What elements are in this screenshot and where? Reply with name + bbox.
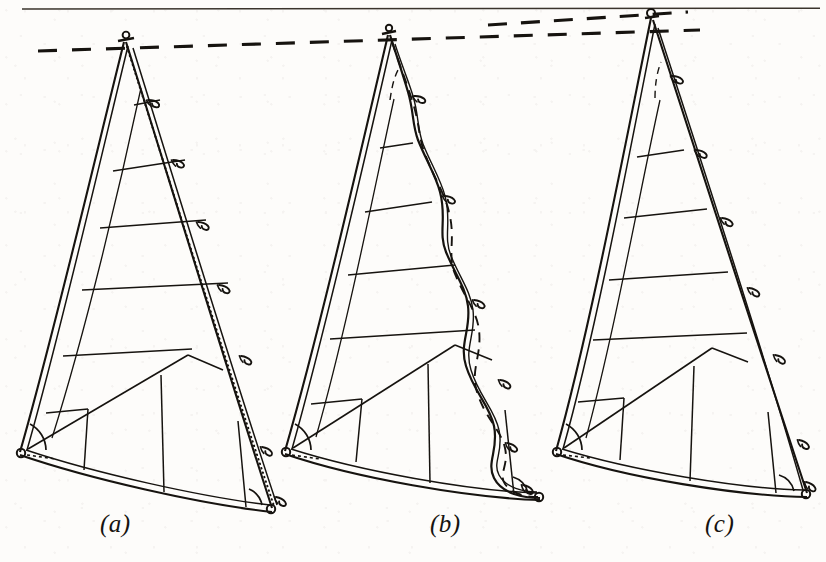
sail-a-seam xyxy=(46,409,88,413)
sail-b-luff-outer xyxy=(285,35,388,451)
sail-a-luff-outer xyxy=(20,42,124,452)
sail-b-luff-tabling xyxy=(316,99,394,437)
sail-c-seam xyxy=(578,398,624,402)
sail-c-mitre-seam-upper xyxy=(712,348,748,362)
sail-c xyxy=(553,9,817,498)
page-top-rule xyxy=(22,8,820,9)
sail-b-seam xyxy=(365,202,432,212)
sail-b xyxy=(282,25,543,501)
sail-a-head-cringle xyxy=(123,32,130,39)
sail-a-mitre-seam xyxy=(28,355,188,449)
sail-c-seam xyxy=(609,272,728,280)
panel-caption-a: (a) xyxy=(100,510,131,538)
sail-c-leech-outer xyxy=(653,20,807,493)
sail-b-luff-tabling-dashed-top xyxy=(390,70,398,100)
sail-b-vertical-seam xyxy=(356,399,362,462)
sail-a-vertical-seam xyxy=(84,409,88,470)
sail-leech-figure: (a) (b) (c) xyxy=(0,0,826,562)
sail-a-leech-inner xyxy=(133,48,277,505)
sail-c-luff-outer xyxy=(556,18,651,451)
sail-b-mitre-seam-upper xyxy=(455,345,492,360)
sail-c-luff-inner xyxy=(563,24,655,449)
sail-a-luff-tabling xyxy=(52,88,141,438)
sail-a-vertical-seam xyxy=(161,375,164,492)
sail-a-seam xyxy=(82,283,228,290)
sail-c-seam xyxy=(593,333,747,340)
reference-datum-long xyxy=(38,30,700,51)
panel-caption-c: (c) xyxy=(705,510,734,538)
sail-c-vertical-seam xyxy=(690,366,694,481)
sail-c-luff-tabling xyxy=(586,100,660,438)
sail-a-seam xyxy=(100,220,206,228)
reference-datum-upper xyxy=(488,12,688,25)
sail-c-vertical-seam xyxy=(768,412,776,493)
sail-a-foot-inner xyxy=(26,450,270,505)
sail-c-luff-tabling-dashed-top xyxy=(655,62,661,98)
sail-b-head-cringle xyxy=(386,25,392,31)
sail-a-mitre-seam-upper xyxy=(188,355,223,370)
panel-caption-b: (b) xyxy=(430,510,461,538)
sail-b-mitre-seam xyxy=(293,345,455,448)
sail-c-foot-outer xyxy=(556,454,807,497)
sail-a-seam xyxy=(63,349,192,356)
sail-b-leech-outer xyxy=(390,35,540,498)
sail-c-mitre-seam xyxy=(564,348,712,448)
sail-a xyxy=(17,32,287,514)
sail-a-batten-fittings xyxy=(145,99,287,508)
sail-c-seam xyxy=(637,150,684,157)
sail-c-vertical-seam xyxy=(620,398,624,460)
sail-b-seam xyxy=(330,330,475,339)
sail-b-foot-outer xyxy=(285,454,540,500)
sail-b-seam xyxy=(311,399,362,404)
sail-diagram-canvas xyxy=(0,0,826,562)
sail-b-seam xyxy=(348,265,455,275)
sail-a-foot-outer xyxy=(20,455,272,512)
sail-b-vertical-seam xyxy=(428,364,430,483)
sail-a-luff-inner xyxy=(27,46,128,450)
sail-b-luff-inner xyxy=(292,40,392,449)
sail-a-vertical-seam xyxy=(238,421,246,507)
